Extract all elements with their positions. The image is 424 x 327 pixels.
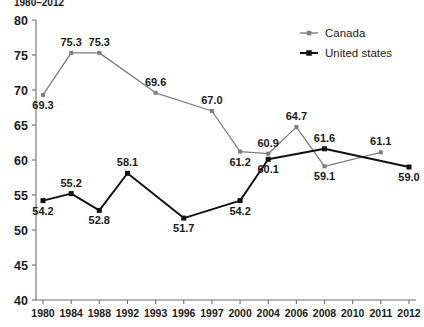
data-point-label: 60.1 xyxy=(257,163,278,175)
y-axis: 404550556065707580 xyxy=(14,14,36,308)
y-tick-label: 60 xyxy=(14,154,28,168)
data-point-label: 64.7 xyxy=(286,110,307,122)
data-point-marker xyxy=(266,157,271,162)
data-point-marker xyxy=(125,171,130,176)
data-point-marker xyxy=(266,152,270,156)
data-point-label: 60.9 xyxy=(257,137,278,149)
data-point-marker xyxy=(41,93,45,97)
x-tick-label: 1993 xyxy=(144,307,168,319)
data-point-label: 52.8 xyxy=(89,214,110,226)
line-chart: 1980–2012 404550556065707580 19801984198… xyxy=(0,0,424,327)
data-point-label: 58.1 xyxy=(117,156,138,168)
legend-label-2: United states xyxy=(325,47,392,59)
y-tick-label: 65 xyxy=(14,119,28,133)
data-point-marker xyxy=(181,216,186,221)
y-tick-label: 70 xyxy=(14,84,28,98)
data-point-marker xyxy=(238,150,242,154)
data-point-label: 54.2 xyxy=(32,205,53,217)
x-tick-label: 2010 xyxy=(341,307,365,319)
data-point-marker xyxy=(323,164,327,168)
data-point-label: 75.3 xyxy=(89,36,110,48)
series-layer xyxy=(41,51,412,221)
legend: CanadaUnited states xyxy=(300,27,392,59)
data-point-label: 59.1 xyxy=(314,170,335,182)
data-point-marker xyxy=(379,150,383,154)
y-tick-label: 45 xyxy=(14,259,28,273)
data-point-marker xyxy=(322,146,327,151)
data-point-label: 55.2 xyxy=(60,177,81,189)
data-point-marker xyxy=(294,125,298,129)
y-tick-label: 55 xyxy=(14,189,28,203)
y-tick-label: 75 xyxy=(14,49,28,63)
y-tick-label: 80 xyxy=(14,14,28,28)
data-point-label: 61.1 xyxy=(370,135,391,147)
data-point-label: 61.2 xyxy=(229,156,250,168)
x-tick-label: 2004 xyxy=(257,307,281,319)
x-tick-label: 2000 xyxy=(228,307,252,319)
data-point-label: 59.0 xyxy=(398,171,419,183)
data-point-marker xyxy=(407,165,412,170)
data-point-label: 69.3 xyxy=(32,99,53,111)
x-tick-label: 1980 xyxy=(31,307,55,319)
data-point-marker xyxy=(238,198,243,203)
chart-svg: 1980–2012 404550556065707580 19801984198… xyxy=(0,0,424,327)
x-tick-label: 2008 xyxy=(313,307,337,319)
x-tick-label: 1996 xyxy=(172,307,196,319)
x-axis: 1980198419881992199319961997200020042006… xyxy=(31,300,421,319)
data-point-label: 75.3 xyxy=(60,36,81,48)
x-tick-label: 2011 xyxy=(369,307,392,319)
chart-title: 1980–2012 xyxy=(14,0,64,8)
x-tick-label: 2006 xyxy=(285,307,309,319)
x-tick-label: 1988 xyxy=(88,307,112,319)
legend-label-1: Canada xyxy=(325,27,366,39)
data-point-label: 61.6 xyxy=(314,132,335,144)
data-point-marker xyxy=(210,109,214,113)
data-point-marker xyxy=(69,191,74,196)
data-point-marker xyxy=(97,208,102,213)
data-point-marker xyxy=(97,51,101,55)
data-point-label: 67.0 xyxy=(201,94,222,106)
x-tick-label: 1984 xyxy=(59,307,83,319)
data-point-label: 54.2 xyxy=(229,205,250,217)
x-tick-label: 1992 xyxy=(116,307,140,319)
data-point-marker xyxy=(154,91,158,95)
x-tick-label: 1997 xyxy=(200,307,224,319)
y-tick-label: 40 xyxy=(14,294,28,308)
data-point-label: 51.7 xyxy=(173,222,194,234)
data-point-marker xyxy=(41,198,46,203)
data-point-label: 69.6 xyxy=(145,76,166,88)
data-point-marker xyxy=(69,51,73,55)
y-tick-label: 50 xyxy=(14,224,28,238)
x-tick-label: 2012 xyxy=(397,307,421,319)
